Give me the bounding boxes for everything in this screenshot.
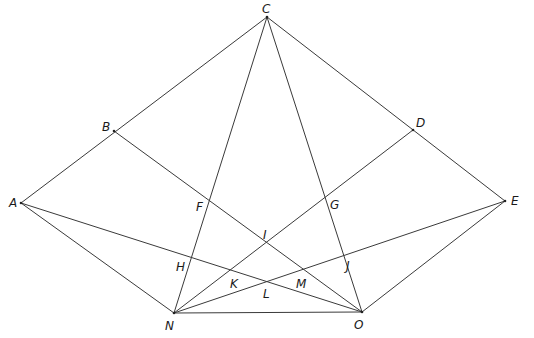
vertex-points [20, 16, 507, 315]
label-e: E [511, 194, 519, 208]
label-g: G [330, 198, 339, 212]
segment-ce [267, 17, 505, 201]
point-o [361, 311, 364, 314]
segment-ac [21, 17, 267, 203]
segment-cn [174, 17, 267, 313]
segment-en [174, 201, 505, 313]
label-f: F [196, 200, 204, 214]
label-k: K [230, 277, 239, 291]
segment-dn [174, 130, 413, 313]
segment-eo [362, 201, 505, 312]
label-d: D [416, 116, 425, 130]
point-b [113, 130, 116, 133]
line-segments [21, 17, 505, 313]
geometry-diagram: ABCDEFGHIJKLMNO [0, 0, 534, 338]
label-b: B [102, 120, 110, 134]
point-labels: ABCDEFGHIJKLMNO [8, 2, 519, 333]
segment-an [21, 203, 174, 313]
label-n: N [165, 319, 174, 333]
label-m: M [296, 277, 307, 291]
segment-ao [21, 203, 362, 312]
point-n [173, 312, 176, 315]
point-e [504, 200, 507, 203]
point-c [266, 16, 269, 19]
label-c: C [262, 2, 271, 16]
label-i: I [263, 228, 267, 242]
label-l: L [263, 287, 270, 301]
label-a: A [8, 196, 17, 210]
point-a [20, 202, 23, 205]
segment-no [174, 312, 362, 313]
segment-bo [114, 131, 362, 312]
label-o: O [354, 318, 363, 332]
label-j: J [344, 259, 350, 273]
point-d [412, 129, 415, 132]
label-h: H [176, 260, 185, 274]
